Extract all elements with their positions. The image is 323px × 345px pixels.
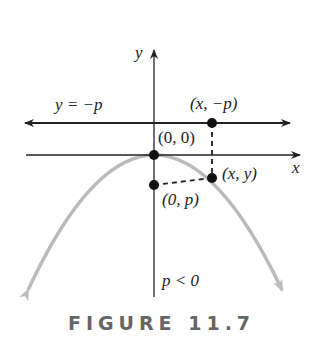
- point-directrix: [207, 118, 217, 128]
- focus-label: (0, p): [162, 190, 199, 210]
- point-origin: [149, 150, 159, 160]
- point-directrix-label: (x, −p): [190, 94, 237, 114]
- x-axis-label: x: [292, 158, 300, 178]
- dashed-focal: [154, 178, 212, 185]
- origin-label: (0, 0): [158, 128, 195, 148]
- figure-caption: FIGURE 11.7: [0, 312, 323, 334]
- directrix-label: y = −p: [55, 95, 103, 115]
- parabola-diagram: [0, 0, 323, 345]
- point-curve-label: (x, y): [222, 164, 257, 184]
- y-axis-label: y: [135, 43, 143, 63]
- point-curve: [207, 173, 217, 183]
- point-focus: [149, 180, 159, 190]
- condition-label: p < 0: [162, 271, 199, 291]
